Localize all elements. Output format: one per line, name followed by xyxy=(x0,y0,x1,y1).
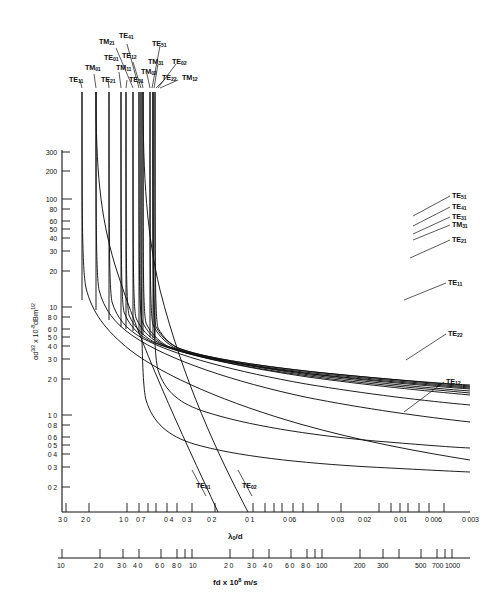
y-tick-label: 0 5 xyxy=(26,442,57,449)
y-tick-label: 0 8 xyxy=(26,422,57,429)
x-top-tick-label: 0 03 xyxy=(331,516,344,523)
x-top-tick-label: 0 01 xyxy=(394,516,407,523)
y-tick-label: 80 xyxy=(26,206,57,213)
y-tick-label: 60 xyxy=(26,218,57,225)
top-label-TE02: TE02 xyxy=(172,58,186,65)
y-tick-label: 3 0 xyxy=(26,356,57,363)
x-bottom-tick-label: 3 0 xyxy=(247,562,256,569)
top-label-TE41: TE41 xyxy=(119,32,133,39)
x-top-tick-label: 2 0 xyxy=(81,516,90,523)
y-tick-label: 0 2 xyxy=(26,484,57,491)
y-tick-label: 4 0 xyxy=(26,343,57,350)
x-top-tick-label: 0 2 xyxy=(207,516,216,523)
x-bottom-tick-label: 10 xyxy=(57,562,65,569)
x-top-tick-label: 0 4 xyxy=(164,516,173,523)
chart-text-layer: αd3/2 x 10-8dBm1/2 300 200 100 80 60 50 … xyxy=(0,0,494,603)
top-label-TE21: TE21 xyxy=(101,76,115,83)
y-tick-label: 2 0 xyxy=(26,376,57,383)
x-top-tick-label: 3 0 xyxy=(58,516,67,523)
top-label-TE31: TE31 xyxy=(129,76,143,83)
x-bottom-tick-label: 1000 xyxy=(445,562,460,569)
x-top-tick-label: 0 1 xyxy=(245,516,254,523)
y-tick-label: 8 0 xyxy=(26,314,57,321)
x-top-tick-label: 0 02 xyxy=(358,516,371,523)
y-tick-label: 20 xyxy=(26,268,57,275)
x-bottom-tick-label: 4 0 xyxy=(263,562,272,569)
top-label-TM01: TM01 xyxy=(85,64,101,71)
top-label-TM31: TM31 xyxy=(148,58,164,65)
top-label-TM21: TM21 xyxy=(99,38,115,45)
y-tick-label: 5 0 xyxy=(26,334,57,341)
right-label-TE51: TE51 xyxy=(452,192,466,199)
x-top-tick-label: 0 003 xyxy=(462,516,479,523)
top-label-TE22: TE22 xyxy=(162,74,176,81)
y-tick-label: 30 xyxy=(26,248,57,255)
right-label-TE12: TE12 xyxy=(446,378,460,385)
top-label-TM12: TM12 xyxy=(182,74,198,81)
y-tick-label: 50 xyxy=(26,226,57,233)
x-bottom-tick-label: 200 xyxy=(354,562,365,569)
y-tick-label: 100 xyxy=(26,196,57,203)
x-bottom-tick-label: 300 xyxy=(377,562,388,569)
x-axis-bottom-caption: fd x 108 m/s xyxy=(213,578,257,587)
x-bottom-tick-label: 2 0 xyxy=(94,562,103,569)
inner-label-TE02: TE02 xyxy=(242,482,256,489)
y-tick-label: 200 xyxy=(26,168,57,175)
top-label-TE01: TE01 xyxy=(104,54,118,61)
top-label-TM02: TM02 xyxy=(141,68,157,75)
x-top-tick-label: 0 3 xyxy=(182,516,191,523)
x-axis-top-caption: λ0/d xyxy=(228,532,243,541)
y-tick-label: 40 xyxy=(26,235,57,242)
x-bottom-tick-label: 10 xyxy=(189,562,197,569)
x-bottom-tick-label: 3 0 xyxy=(117,562,126,569)
x-bottom-tick-label: 8 0 xyxy=(301,562,310,569)
top-label-TE11: TE11 xyxy=(69,76,83,83)
inner-label-TE01: TE01 xyxy=(196,482,210,489)
x-bottom-tick-label: 6 0 xyxy=(285,562,294,569)
x-top-tick-label: 0 06 xyxy=(283,516,296,523)
x-top-tick-label: 0 7 xyxy=(136,516,145,523)
top-label-TM11: TM11 xyxy=(116,64,131,71)
right-label-TE11: TE11 xyxy=(448,279,462,286)
right-label-TE22: TE22 xyxy=(448,330,462,337)
y-tick-label: 6 0 xyxy=(26,326,57,333)
x-bottom-tick-label: 500 xyxy=(415,562,426,569)
right-label-TM31: TM31 xyxy=(452,221,468,228)
x-bottom-tick-label: 2 0 xyxy=(224,562,233,569)
x-bottom-tick-label: 8 0 xyxy=(172,562,181,569)
top-label-TE51: TE51 xyxy=(152,40,166,47)
y-tick-label: 1 0 xyxy=(26,412,57,419)
x-top-tick-label: 0 006 xyxy=(425,516,442,523)
x-bottom-tick-label: 4 0 xyxy=(133,562,142,569)
y-tick-label: 0 4 xyxy=(26,451,57,458)
y-tick-label: 0 6 xyxy=(26,434,57,441)
y-tick-label: 300 xyxy=(26,149,57,156)
right-label-TE21: TE21 xyxy=(452,236,466,243)
right-label-TE41: TE41 xyxy=(452,203,466,210)
x-bottom-tick-label: 100 xyxy=(316,562,327,569)
x-bottom-tick-label: 700 xyxy=(432,562,443,569)
x-top-tick-label: 1 0 xyxy=(119,516,128,523)
x-bottom-tick-label: 6 0 xyxy=(155,562,164,569)
y-tick-label: 0 3 xyxy=(26,464,57,471)
top-label-TE12: TE12 xyxy=(122,52,136,59)
y-tick-label: 10 xyxy=(26,304,57,311)
